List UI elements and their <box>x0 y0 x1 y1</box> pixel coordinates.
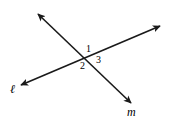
geometry-figure: 1 2 3 ℓ m <box>0 0 169 122</box>
angle-label-3: 3 <box>96 55 101 65</box>
angle-label-2: 2 <box>80 61 85 71</box>
line-l-segment <box>21 26 160 85</box>
angle-label-1: 1 <box>86 44 91 54</box>
line-label-l: ℓ <box>10 83 15 95</box>
line-label-m: m <box>127 106 136 118</box>
